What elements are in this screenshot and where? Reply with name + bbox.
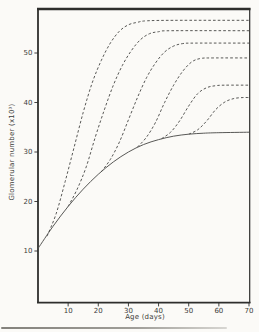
x-tick-label: 50	[184, 307, 193, 315]
scanned-figure-page: 102030405060701020304050 Glomerular numb…	[0, 0, 259, 332]
x-tick-label: 20	[94, 307, 103, 315]
curve-dashed-5	[162, 85, 249, 138]
x-axis-title: Age (days)	[125, 313, 165, 321]
scan-artifact-line	[1, 327, 227, 329]
x-tick-label: 10	[64, 307, 73, 315]
y-tick-label: 40	[24, 99, 33, 107]
curve-dashed-6	[189, 97, 249, 134]
glomerular-growth-chart: 102030405060701020304050	[0, 0, 259, 332]
curve-dashed-2	[68, 31, 249, 207]
x-tick-label: 60	[214, 307, 223, 315]
y-axis-title: Glomerular number (x10³)	[8, 103, 16, 200]
y-tick-label: 10	[24, 247, 33, 255]
curve-dashed-1	[47, 20, 249, 236]
curve-control-solid	[38, 132, 249, 248]
x-tick-label: 70	[245, 307, 254, 315]
y-tick-label: 20	[24, 198, 33, 206]
curve-dashed-3	[101, 43, 249, 172]
y-tick-label: 50	[24, 49, 33, 57]
y-tick-label: 30	[24, 148, 33, 156]
